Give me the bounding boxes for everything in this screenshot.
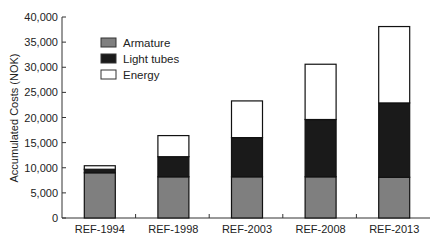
y-tick-label: 15,000 [24, 137, 58, 149]
bar-segment-energy [158, 136, 189, 157]
bar-ref-1994 [84, 166, 115, 218]
legend-label: Energy [123, 69, 160, 81]
y-tick-label: 35,000 [24, 36, 58, 48]
bar-segment-light-tubes [232, 138, 263, 177]
bar-segment-armature [232, 177, 263, 218]
legend-swatch-armature [101, 38, 116, 47]
bar-segment-energy [379, 27, 410, 103]
bar-ref-2008 [305, 64, 336, 218]
legend: ArmatureLight tubesEnergy [101, 37, 180, 81]
legend-label: Armature [123, 37, 170, 49]
bar-ref-2003 [232, 101, 263, 218]
y-tick-label: 10,000 [24, 162, 58, 174]
bar-segment-energy [305, 64, 336, 119]
x-tick-label: REF-2008 [296, 223, 346, 235]
bar-segment-light-tubes [305, 120, 336, 177]
bar-segment-energy [84, 166, 115, 170]
legend-swatch-light-tubes [101, 54, 116, 63]
legend-label: Light tubes [123, 53, 180, 65]
stacked-bar-chart: 05,00010,00015,00020,00025,00030,00035,0… [0, 0, 438, 242]
legend-swatch-energy [101, 70, 116, 79]
y-tick-label: 25,000 [24, 86, 58, 98]
y-tick-label: 5,000 [30, 187, 58, 199]
bar-segment-armature [379, 177, 410, 218]
x-tick-label: REF-2003 [222, 223, 272, 235]
y-axis-title: Accumulated Costs (NOK) [8, 54, 20, 183]
bar-segment-energy [232, 101, 263, 138]
y-tick-label: 30,000 [24, 61, 58, 73]
x-tick-label: REF-2013 [369, 223, 419, 235]
y-tick-label: 0 [52, 212, 58, 224]
bar-segment-light-tubes [158, 157, 189, 177]
bar-segment-armature [305, 177, 336, 218]
y-tick-label: 20,000 [24, 112, 58, 124]
x-tick-label: REF-1994 [75, 223, 125, 235]
bar-ref-1998 [158, 136, 189, 218]
x-tick-label: REF-1998 [148, 223, 198, 235]
y-tick-label: 40,000 [24, 11, 58, 23]
bar-segment-light-tubes [379, 103, 410, 177]
bar-segment-armature [84, 173, 115, 218]
bar-ref-2013 [379, 27, 410, 218]
bar-segment-armature [158, 177, 189, 218]
y-axis: 05,00010,00015,00020,00025,00030,00035,0… [24, 11, 66, 224]
